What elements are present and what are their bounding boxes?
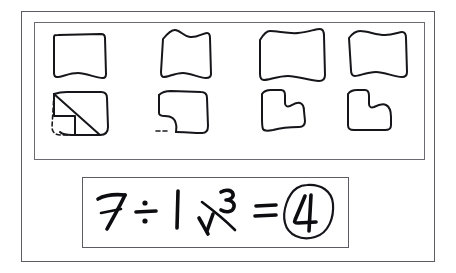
shape-3-top-label: Wavy square sheet — [0, 0, 1, 1]
shape-cell-3-bottom — [250, 83, 346, 152]
shape-cell-3-top — [250, 23, 346, 92]
answer-four — [295, 195, 316, 231]
digit-seven — [98, 195, 125, 229]
shape-3-bottom-label: L-shaped sheet with notch cut at top-rig… — [0, 0, 1, 1]
shape-column-2 — [145, 23, 241, 161]
shape-2-bottom-label: Sheet with curved notch cut at bottom-le… — [0, 0, 1, 1]
shapes-panel — [34, 22, 425, 160]
shape-cell-1-bottom — [41, 85, 137, 154]
shape-cell-4-bottom — [335, 82, 431, 151]
shapes-panel-label: Folded paper shape sequence — [0, 0, 1, 1]
shape-1-bottom-label: Square with bottom-left corner folded di… — [0, 0, 1, 1]
shape-4-bottom-label: Sheet with rounded notch cut at upper-ri… — [0, 0, 1, 1]
shape-4-top-label: Wavy square sheet — [0, 0, 1, 1]
handwritten-equation — [83, 178, 348, 247]
shape-cell-2-bottom — [145, 83, 241, 152]
division-operator — [136, 200, 156, 223]
shape-column-1 — [41, 23, 137, 161]
divisor-whole-one — [177, 191, 178, 228]
equals-sign — [255, 205, 276, 216]
outer-border — [21, 11, 435, 262]
equation-text: 7 ÷ 1 3/4 = 4 — [0, 0, 1, 1]
worksheet-page: 7 ÷ 1 3/4 = 4 Paper folding and division… — [0, 0, 456, 273]
equation-panel — [82, 177, 349, 248]
shape-column-3 — [250, 23, 346, 161]
shape-column-4 — [335, 23, 431, 161]
shape-1-top-label: Square sheet — [0, 0, 1, 1]
document-title: Paper folding and division worksheet — [0, 0, 1, 1]
divisor-fraction — [199, 190, 235, 234]
shape-2-top-label: Wavy square sheet — [0, 0, 1, 1]
